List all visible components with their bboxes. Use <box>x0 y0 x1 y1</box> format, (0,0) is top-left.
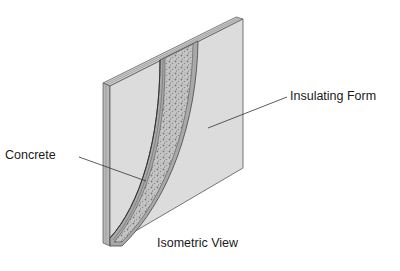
isometric-wall-diagram <box>0 0 400 271</box>
form-left-edge <box>103 83 110 246</box>
view-caption: Isometric View <box>157 237 238 250</box>
concrete-label: Concrete <box>5 149 56 162</box>
insulating-form-label: Insulating Form <box>290 90 376 103</box>
